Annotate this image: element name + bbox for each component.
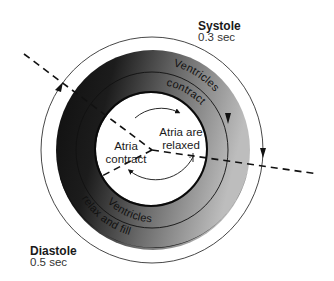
systole-duration: 0.3 sec	[198, 31, 235, 43]
diastole-duration: 0.5 sec	[30, 256, 67, 268]
atria-relaxed-line2: relaxed	[156, 139, 206, 152]
atria-relaxed-label: Atria are relaxed	[156, 126, 206, 151]
outer-arrow-icon-left	[55, 82, 63, 92]
atria-relaxed-line1: Atria are	[156, 126, 206, 139]
atria-contract-line2: contract	[101, 153, 151, 166]
atria-contract-line1: Atria	[101, 140, 151, 153]
outer-arrow-icon-right	[260, 148, 266, 158]
atria-contract-label: Atria contract	[101, 140, 151, 165]
